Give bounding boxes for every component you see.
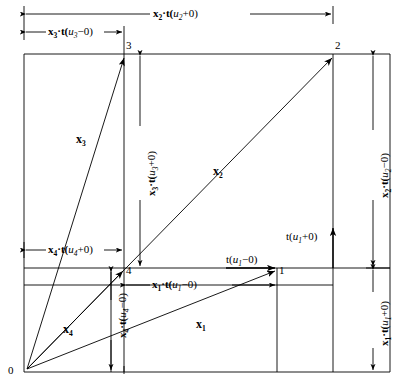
arrow-label-t-u1-plus: t(u1+0) <box>286 231 317 245</box>
dimension-label-mid-horizontal-left: x4·t(u4+0) <box>48 244 93 258</box>
vector-label-x4-sub: 4 <box>69 329 73 338</box>
dimension-label-low-vertical: x4·t(u4−0) <box>117 293 131 338</box>
dim-mv-pre: x <box>145 191 157 197</box>
frame-lines <box>24 54 390 372</box>
node-label-1: 1 <box>279 265 285 276</box>
tu1m-post: −0) <box>242 253 257 265</box>
dim-ru-varsub: 2 <box>384 169 393 173</box>
dim-rl-post: +0) <box>378 301 390 316</box>
dim-mhr-mid: ·t( <box>161 278 172 290</box>
dim-lv-varsub: 4 <box>122 309 131 313</box>
dim-ru-pre: x <box>378 193 390 199</box>
dim-lv-sub: 4 <box>122 329 131 333</box>
dim-rl-mid: ·t( <box>378 326 390 337</box>
dim-ru-var: u <box>378 172 390 178</box>
dim-mhl-mid: ·t( <box>57 243 68 255</box>
dim-top-inner-mid: ·t( <box>57 25 68 37</box>
vector-label-x2-sub: 2 <box>219 171 223 180</box>
dim-top-inner-post: −0) <box>78 25 93 37</box>
dim-rl-sub: 1 <box>384 337 393 341</box>
dimension-label-right-upper: x2·t(u2−0) <box>379 153 393 198</box>
dimension-label-top-inner: x3·t(u3−0) <box>48 26 93 40</box>
dim-ru-post: −0) <box>378 153 390 168</box>
dim-rl-varsub: 1 <box>384 317 393 321</box>
vector-x4-arrow <box>27 271 123 369</box>
vector-label-x1-sub: 1 <box>202 324 206 333</box>
dimension-label-mid-horizontal-right: x1·t(u1−0) <box>152 279 197 293</box>
dim-lv-mid: ·t( <box>116 318 128 329</box>
dim-ru-mid: ·t( <box>378 178 390 189</box>
vector-label-x3: x3 <box>76 133 86 148</box>
dim-rl-pre: x <box>378 341 390 347</box>
dim-mv-mid: ·t( <box>145 176 157 187</box>
node-label-2: 2 <box>335 40 341 51</box>
origin-label: 0 <box>8 365 14 376</box>
dimension-label-right-lower: x1·t(u1+0) <box>379 301 393 346</box>
dim-mv-sub: 3 <box>151 187 160 191</box>
dimension-label-mid-vertical: x3·t(u3+0) <box>146 151 160 196</box>
dim-mhl-post: +0) <box>78 243 93 255</box>
arrow-label-t-u1-minus: t(u1−0) <box>226 254 257 268</box>
tu1m-pre: t( <box>226 253 233 265</box>
dim-lv-var: u <box>116 312 128 318</box>
vector-x3-arrow <box>27 58 124 369</box>
dim-rl-var: u <box>378 320 390 326</box>
figure-canvas: 3 2 4 1 0 x3 x2 x4 x1 x2·t(u2+0) x3·t(u3… <box>0 0 398 389</box>
node-label-4: 4 <box>126 265 132 276</box>
dim-top-outer-post: +0) <box>183 7 198 19</box>
dimension-label-top-outer: x2·t(u2+0) <box>153 8 198 22</box>
vector-x1-arrow <box>27 271 275 369</box>
dim-mhr-post: −0) <box>182 278 197 290</box>
dim-mv-var: u <box>145 170 157 176</box>
dim-lv-post: −0) <box>116 293 128 308</box>
vector-label-x2: x2 <box>213 165 223 180</box>
dim-mv-varsub: 3 <box>151 167 160 171</box>
vector-label-x3-sub: 3 <box>82 139 86 148</box>
dim-mv-post: +0) <box>145 151 157 166</box>
tu1p-post: +0) <box>302 230 317 242</box>
node-label-3: 3 <box>126 40 132 51</box>
dim-ru-sub: 2 <box>384 189 393 193</box>
vector-label-x1: x1 <box>196 318 206 333</box>
dim-lv-pre: x <box>116 333 128 339</box>
tu1p-pre: t( <box>286 230 293 242</box>
dim-top-outer-mid: ·t( <box>162 7 173 19</box>
vector-label-x4: x4 <box>63 323 73 338</box>
vector-arrows <box>27 58 332 369</box>
